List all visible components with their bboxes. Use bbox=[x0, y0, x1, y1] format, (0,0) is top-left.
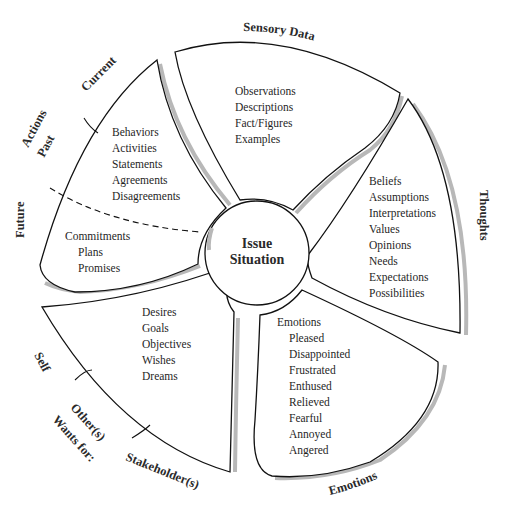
actions-current-label: Current bbox=[78, 53, 119, 94]
thoughts-label: Thoughts bbox=[477, 190, 491, 241]
list-item: Needs bbox=[369, 255, 398, 267]
list-item: Enthused bbox=[289, 380, 332, 392]
list-item: Examples bbox=[235, 133, 281, 146]
list-item: Frustrated bbox=[289, 364, 336, 376]
list-item: Activities bbox=[112, 142, 157, 154]
center-issue-situation: Issue Situation bbox=[205, 201, 309, 305]
sensory-data-label: Sensory Data bbox=[243, 20, 317, 44]
list-item: Beliefs bbox=[369, 175, 402, 187]
wants-self-label: Self bbox=[31, 350, 53, 375]
list-item: Agreements bbox=[112, 174, 168, 187]
list-item: Goals bbox=[142, 322, 169, 334]
list-item: Expectations bbox=[369, 271, 429, 284]
list-item: Pleased bbox=[289, 332, 324, 344]
list-header: Emotions bbox=[277, 316, 322, 328]
list-item: Dreams bbox=[142, 370, 178, 382]
list-item: Behaviors bbox=[112, 126, 159, 138]
issue-situation-diagram: Sensory Data Observations Descriptions F… bbox=[0, 0, 510, 512]
list-item: Possibilities bbox=[369, 287, 425, 299]
list-item: Assumptions bbox=[369, 191, 430, 204]
list-item: Angered bbox=[289, 444, 329, 457]
actions-future-label: Future bbox=[13, 201, 27, 238]
divider-tick-others bbox=[132, 425, 150, 438]
list-item: Fearful bbox=[289, 412, 322, 424]
list-item: Promises bbox=[78, 262, 121, 274]
list-item: Disappointed bbox=[289, 348, 351, 361]
list-item: Plans bbox=[78, 246, 103, 258]
list-item: Fact/Figures bbox=[235, 117, 293, 130]
list-item: Descriptions bbox=[235, 101, 294, 114]
list-item: Values bbox=[369, 223, 400, 235]
list-item: Interpretations bbox=[369, 207, 437, 220]
center-title-line1: Issue bbox=[242, 236, 272, 251]
list-item: Commitments bbox=[65, 230, 131, 242]
center-title-line2: Situation bbox=[230, 252, 285, 267]
list-item: Statements bbox=[112, 158, 163, 170]
list-item: Relieved bbox=[289, 396, 330, 408]
actions-past-label: Past bbox=[34, 132, 58, 160]
list-item: Annoyed bbox=[289, 428, 331, 441]
list-item: Wishes bbox=[142, 354, 176, 366]
list-item: Observations bbox=[235, 85, 296, 97]
petal-wants: Self Other(s) Wants for: Stakeholder(s) … bbox=[31, 265, 238, 492]
list-item: Opinions bbox=[369, 239, 412, 252]
list-item: Objectives bbox=[142, 338, 192, 351]
list-item: Desires bbox=[142, 306, 177, 318]
list-item: Disagreements bbox=[112, 190, 181, 203]
